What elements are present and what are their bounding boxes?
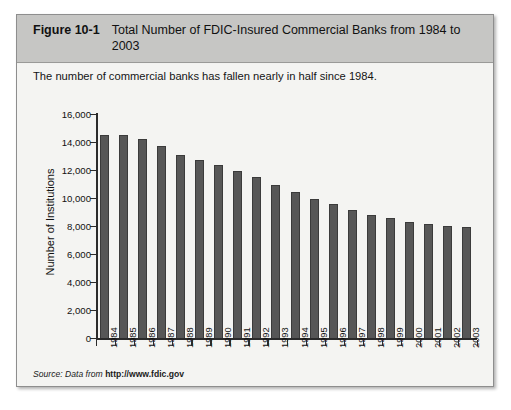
plot-area: Number of Institutions 16,00014,00012,00… xyxy=(17,90,495,388)
bar xyxy=(329,204,338,338)
x-tick-label: 2002 xyxy=(452,327,462,348)
x-tick-label: 1990 xyxy=(223,327,233,348)
y-tick-label: 12,000 xyxy=(39,165,91,176)
x-tick-label: 1984 xyxy=(109,327,119,348)
bar xyxy=(100,135,109,338)
y-tick-label: 14,000 xyxy=(39,137,91,148)
x-tick-label: 1999 xyxy=(395,327,405,348)
source-url: http://www.fdic.gov xyxy=(105,369,184,379)
y-tick-mark xyxy=(90,198,97,199)
x-tick-mark xyxy=(172,340,173,346)
y-tick-mark xyxy=(90,142,97,143)
x-tick-mark xyxy=(439,340,440,346)
x-tick-mark xyxy=(287,340,288,346)
y-tick-label: 2,000 xyxy=(39,305,91,316)
bar xyxy=(386,218,395,338)
bar xyxy=(367,215,376,338)
y-tick-mark xyxy=(90,254,97,255)
x-tick-mark xyxy=(96,340,97,346)
figure-panel: Figure 10-1 Total Number of FDIC-Insured… xyxy=(16,14,494,387)
bar xyxy=(271,185,280,338)
x-tick-label: 1987 xyxy=(166,327,176,348)
x-tick-mark xyxy=(248,340,249,346)
x-tick-mark xyxy=(458,340,459,346)
x-tick-label: 1997 xyxy=(357,327,367,348)
x-tick-mark xyxy=(477,340,478,346)
x-tick-label: 1996 xyxy=(338,327,348,348)
y-tick-label: 8,000 xyxy=(39,221,91,232)
source-note: Source: Data from http://www.fdic.gov xyxy=(33,369,184,379)
x-tick-mark xyxy=(229,340,230,346)
bar xyxy=(176,155,185,338)
x-tick-label: 1991 xyxy=(242,327,252,348)
y-tick-label: 16,000 xyxy=(39,109,91,120)
bar xyxy=(443,226,452,338)
x-tick-label: 1988 xyxy=(185,327,195,348)
figure-header: Figure 10-1 Total Number of FDIC-Insured… xyxy=(17,15,493,63)
x-tick-label: 1993 xyxy=(280,327,290,348)
bar xyxy=(310,199,319,338)
y-tick-mark xyxy=(90,310,97,311)
x-tick-label: 1995 xyxy=(319,327,329,348)
x-tick-mark xyxy=(325,340,326,346)
chart-body: Number of Institutions 16,00014,00012,00… xyxy=(17,90,493,386)
x-tick-label: 1992 xyxy=(261,327,271,348)
x-tick-label: 1998 xyxy=(376,327,386,348)
figure-number-label: Figure 10-1 xyxy=(33,22,112,38)
figure-header-row: Figure 10-1 Total Number of FDIC-Insured… xyxy=(33,22,479,54)
figure-caption: The number of commercial banks has falle… xyxy=(17,64,493,90)
x-axis-tick-labels: 1984198519861987198819891990199119921993… xyxy=(96,346,477,386)
x-tick-mark xyxy=(306,340,307,346)
bar xyxy=(138,139,147,338)
y-tick-mark xyxy=(90,114,97,115)
y-tick-mark xyxy=(90,226,97,227)
x-tick-mark xyxy=(401,340,402,346)
bar xyxy=(424,224,433,338)
y-tick-mark xyxy=(90,282,97,283)
y-axis-tick-labels: 16,00014,00012,00010,0008,0006,0004,0002… xyxy=(39,90,91,388)
x-tick-label: 1986 xyxy=(147,327,157,348)
x-tick-mark xyxy=(115,340,116,346)
y-tick-label: 6,000 xyxy=(39,249,91,260)
x-tick-mark xyxy=(267,340,268,346)
x-tick-mark xyxy=(153,340,154,346)
bar xyxy=(157,146,166,338)
x-tick-label: 1994 xyxy=(300,327,310,348)
bar xyxy=(233,171,242,338)
y-tick-label: 0 xyxy=(39,333,91,344)
x-tick-mark xyxy=(420,340,421,346)
bars-layer xyxy=(96,90,477,340)
bar xyxy=(195,160,204,338)
bar xyxy=(291,192,300,338)
bar xyxy=(405,222,414,338)
y-tick-label: 4,000 xyxy=(39,277,91,288)
x-tick-mark xyxy=(210,340,211,346)
source-prefix: Source: Data from xyxy=(33,369,105,379)
bar xyxy=(462,227,471,338)
x-tick-label: 2001 xyxy=(433,327,443,348)
x-tick-mark xyxy=(191,340,192,346)
x-tick-label: 1985 xyxy=(128,327,138,348)
figure-title: Total Number of FDIC-Insured Commercial … xyxy=(112,22,472,54)
bar xyxy=(214,165,223,338)
bar xyxy=(119,135,128,338)
y-tick-label: 10,000 xyxy=(39,193,91,204)
x-tick-label: 2003 xyxy=(471,327,481,348)
x-tick-label: 1989 xyxy=(204,327,214,348)
x-tick-label: 2000 xyxy=(414,327,424,348)
x-tick-mark xyxy=(134,340,135,346)
bar xyxy=(348,210,357,338)
x-tick-mark xyxy=(363,340,364,346)
x-tick-mark xyxy=(344,340,345,346)
bar xyxy=(252,177,261,338)
y-tick-mark xyxy=(90,170,97,171)
x-tick-mark xyxy=(382,340,383,346)
